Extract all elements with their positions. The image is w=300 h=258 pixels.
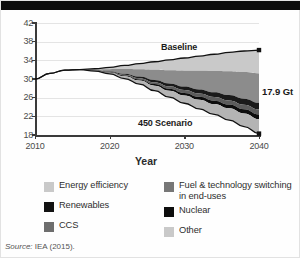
scenario-annotation: 450 Scenario bbox=[138, 118, 192, 128]
baseline-endpoint bbox=[257, 48, 261, 52]
scenario-endpoint bbox=[257, 131, 261, 135]
legend-item-label: Renewables bbox=[59, 200, 164, 211]
swatch-renewables bbox=[44, 202, 54, 212]
swatch-fuel-technology-switching bbox=[164, 182, 174, 192]
legend-item[interactable]: Other bbox=[164, 225, 294, 241]
legend-column-2: Fuel & technology switching in end-usesN… bbox=[164, 180, 294, 245]
legend-item-label: Nuclear bbox=[179, 205, 294, 216]
legend-column-1: Energy efficiencyRenewablesCCS bbox=[44, 180, 164, 240]
swatch-ccs bbox=[44, 222, 54, 232]
top-black-bar bbox=[1, 1, 300, 10]
chart-area: 18222630343842 2010202020302040 Gt CO2 Y… bbox=[1, 10, 300, 176]
swatch-other bbox=[164, 227, 174, 237]
legend-item[interactable]: Renewables bbox=[44, 200, 164, 216]
legend-item-label: Other bbox=[179, 225, 294, 236]
baseline-annotation: Baseline bbox=[161, 42, 197, 52]
swatch-energy-efficiency bbox=[44, 182, 54, 192]
legend-item-label: Fuel & technology switching in end-uses bbox=[179, 180, 294, 201]
chart-plot-svg bbox=[1, 10, 300, 176]
legend-item-label: CCS bbox=[59, 220, 164, 231]
x-axis-title: Year bbox=[1, 155, 291, 167]
gap-value-annotation: 17.9 Gt bbox=[262, 86, 293, 97]
legend: Energy efficiencyRenewablesCCS Fuel & te… bbox=[1, 180, 300, 238]
legend-item[interactable]: Fuel & technology switching in end-uses bbox=[164, 180, 294, 201]
figure-container: 18222630343842 2010202020302040 Gt CO2 Y… bbox=[0, 0, 300, 258]
source-prefix: Source: bbox=[5, 242, 33, 251]
legend-item-label: Energy efficiency bbox=[59, 180, 164, 191]
source-text: IEA (2015). bbox=[35, 242, 75, 251]
legend-item[interactable]: Energy efficiency bbox=[44, 180, 164, 196]
legend-item[interactable]: Nuclear bbox=[164, 205, 294, 221]
source-note: Source: IEA (2015). bbox=[5, 242, 75, 251]
swatch-nuclear bbox=[164, 207, 174, 217]
legend-item[interactable]: CCS bbox=[44, 220, 164, 236]
